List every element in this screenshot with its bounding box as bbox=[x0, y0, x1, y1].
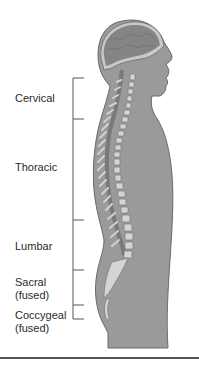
thoracic-label: Thoracic bbox=[15, 161, 57, 173]
lumbar-label: Lumbar bbox=[15, 240, 52, 252]
region-bracket bbox=[73, 78, 84, 319]
label-coccygeal: Coccygeal (fused) bbox=[15, 309, 66, 335]
bottom-rule bbox=[0, 357, 199, 359]
coccygeal-label: Coccygeal bbox=[15, 309, 66, 322]
coccygeal-sublabel: (fused) bbox=[15, 322, 66, 335]
label-sacral: Sacral (fused) bbox=[15, 276, 49, 302]
label-lumbar: Lumbar bbox=[15, 240, 52, 253]
label-cervical: Cervical bbox=[15, 92, 55, 105]
label-thoracic: Thoracic bbox=[15, 161, 57, 174]
sacral-label: Sacral bbox=[15, 276, 49, 289]
cervical-label: Cervical bbox=[15, 92, 55, 104]
sacral-sublabel: (fused) bbox=[15, 289, 49, 302]
